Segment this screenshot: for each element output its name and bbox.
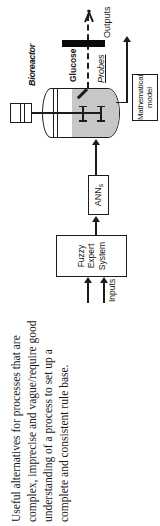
arrow-ann-to-bioreactor-line: [95, 144, 97, 175]
probes-label: Probes: [97, 54, 106, 83]
ann-box-label: ANNs: [93, 184, 104, 206]
inputs-arrow-1-head: [84, 277, 92, 283]
scanned-figure-page: Useful alternatives for processes that a…: [0, 0, 160, 526]
outputs-label: Outputs: [103, 6, 112, 38]
barrier-bar: [62, 41, 105, 48]
impeller-1-cap-right: [79, 106, 87, 108]
ann-base-text: ANN: [93, 187, 103, 206]
ann-box: ANNs: [88, 175, 109, 215]
mathematical-model-box: Mathematical model: [132, 74, 158, 121]
motor-divider-2: [24, 104, 25, 122]
rotated-figure-canvas: Useful alternatives for processes that a…: [0, 0, 160, 526]
impeller-1-cap-left: [79, 121, 87, 123]
probes-signal-arrowhead: [123, 36, 131, 42]
figure-caption: Useful alternatives for processes that a…: [8, 321, 72, 523]
caption-line-2: complex, imprecise and vague/require goo…: [24, 321, 40, 523]
caption-line-4: complete and consistent rule base.: [56, 321, 72, 523]
fuzzy-box-line-2: Expert: [86, 244, 97, 269]
inputs-label: Inputs: [108, 279, 117, 302]
stirrer-shaft: [32, 113, 101, 115]
fuzzy-expert-system-box: Fuzzy Expert System: [56, 235, 127, 277]
inputs-arrow-1-line: [87, 281, 89, 303]
caption-line-1: Useful alternatives for processes that a…: [8, 321, 24, 523]
glucose-dashed-line: [87, 15, 89, 88]
impeller-2-cap-left: [97, 121, 105, 123]
math-model-line-1: Mathematical: [136, 75, 146, 120]
inputs-arrow-2-line: [103, 281, 105, 303]
stirrer-motor: [10, 103, 32, 123]
arrow-fuzzy-to-ann-line: [95, 220, 97, 235]
fuzzy-box-line-3: System: [97, 242, 108, 270]
arrow-fuzzy-to-ann-head: [92, 216, 100, 222]
ann-subscript-text: s: [97, 184, 104, 187]
glucose-label: Glucose: [69, 48, 78, 82]
impeller-2-cap-right: [97, 106, 105, 108]
caption-line-3: understanding of a process to set up a: [40, 321, 56, 523]
math-model-line-2: model: [145, 87, 155, 108]
bioreactor-label: Bioreactor: [28, 44, 37, 86]
arrow-ann-to-bioreactor-head: [92, 139, 100, 145]
probes-signal-line: [126, 41, 128, 104]
fuzzy-box-line-1: Fuzzy: [76, 245, 87, 268]
motor-divider-1: [20, 104, 21, 122]
